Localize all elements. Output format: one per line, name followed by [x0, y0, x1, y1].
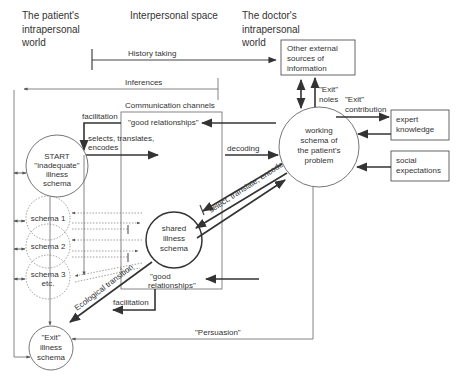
- svg-text:world: world: [21, 37, 46, 48]
- svg-text:schema: schema: [160, 244, 189, 253]
- persuasion-arrow: "Persuasion": [72, 187, 313, 339]
- svg-text:sources of: sources of: [287, 54, 325, 63]
- svg-text:"Exit": "Exit": [345, 95, 364, 104]
- select-translate-encode-arrows: select, translate, encode: [196, 160, 287, 238]
- svg-text:illness: illness: [40, 343, 62, 352]
- exit-contribution-arrow: "Exit" contribution: [336, 95, 389, 117]
- working-schema-node: working schema of the patient's problem: [279, 107, 359, 187]
- svg-text:relationships": relationships": [148, 281, 196, 290]
- shared-schema-node: shared illness schema: [146, 212, 202, 268]
- svg-text:"Exit": "Exit": [319, 85, 338, 94]
- other-sources-box: Other external sources of information: [281, 40, 355, 75]
- svg-text:START: START: [44, 152, 70, 161]
- svg-text:working: working: [304, 126, 333, 135]
- ecological-transition-arrow: Ecological transition: [70, 262, 152, 322]
- svg-text:History taking: History taking: [128, 49, 176, 58]
- facilitation-bottom-arrow: facilitation: [113, 289, 155, 310]
- illness-schema-diagram: The patient's intrapersonal world Interp…: [0, 0, 457, 384]
- svg-text:intrapersonal: intrapersonal: [22, 24, 80, 35]
- svg-text:noles: noles: [319, 95, 338, 104]
- svg-text:"Persuasion": "Persuasion": [195, 328, 241, 337]
- expert-knowledge-box: expert knowledge: [358, 110, 449, 140]
- svg-text:knowledge: knowledge: [396, 125, 435, 134]
- svg-text:schema 3: schema 3: [31, 270, 66, 279]
- svg-text:selects, translates,: selects, translates,: [88, 134, 154, 143]
- svg-text:"good relationships": "good relationships": [128, 118, 199, 127]
- schema-2-node: schema 2: [14, 224, 70, 268]
- svg-text:the patient's: the patient's: [298, 146, 341, 155]
- social-expectations-box: social expectations: [357, 151, 449, 181]
- history-taking-arrow: History taking: [92, 49, 276, 70]
- svg-text:facilitation: facilitation: [82, 112, 118, 121]
- svg-text:The doctor's: The doctor's: [242, 10, 297, 21]
- left-return-line: [14, 90, 30, 357]
- svg-text:schema 1: schema 1: [31, 214, 66, 223]
- svg-text:illness: illness: [46, 170, 68, 179]
- header-interpersonal-space: Interpersonal space: [130, 10, 218, 21]
- header-patient-world: The patient's intrapersonal world: [21, 10, 80, 48]
- svg-text:intrapersonal: intrapersonal: [242, 24, 300, 35]
- inferences-arrow: Inferences: [24, 78, 218, 100]
- svg-text:Other external: Other external: [287, 44, 338, 53]
- communication-channels-box: Communication channels "good relationshi…: [121, 101, 276, 289]
- start-schema-node: START "inadequate" illness schema: [14, 135, 88, 197]
- decoding-arrow: decoding: [225, 144, 278, 155]
- good-relationships-bottom-arrow: "good relationships": [148, 272, 259, 290]
- svg-text:information: information: [287, 64, 327, 73]
- svg-text:schema: schema: [43, 179, 72, 188]
- svg-text:social: social: [396, 156, 417, 165]
- svg-text:Communication channels: Communication channels: [125, 101, 215, 110]
- schema-3-node: schema 3 etc.: [14, 255, 70, 299]
- svg-text:illness: illness: [163, 234, 185, 243]
- svg-text:problem: problem: [305, 156, 334, 165]
- svg-text:schema: schema: [37, 353, 66, 362]
- svg-text:The patient's: The patient's: [22, 10, 79, 21]
- svg-text:expert: expert: [396, 115, 419, 124]
- svg-text:contribution: contribution: [345, 105, 386, 114]
- svg-text:"Exit": "Exit": [41, 333, 60, 342]
- schema-1-node: schema 1: [14, 196, 70, 240]
- svg-text:shared: shared: [162, 224, 186, 233]
- svg-text:decoding: decoding: [227, 144, 259, 153]
- svg-text:schema 2: schema 2: [31, 242, 66, 251]
- svg-text:schema of: schema of: [301, 136, 339, 145]
- exit-schema-node: "Exit" illness schema: [29, 326, 73, 370]
- svg-text:"good: "good: [150, 272, 171, 281]
- svg-text:facilitation: facilitation: [113, 298, 149, 307]
- svg-text:encodes: encodes: [88, 143, 118, 152]
- svg-text:Inferences: Inferences: [125, 78, 162, 87]
- svg-text:expectations: expectations: [396, 166, 441, 175]
- svg-text:etc.: etc.: [42, 279, 55, 288]
- other-sources-links: "Exit" noles: [301, 78, 338, 108]
- svg-text:world: world: [241, 37, 266, 48]
- svg-text:"inadequate": "inadequate": [34, 161, 79, 170]
